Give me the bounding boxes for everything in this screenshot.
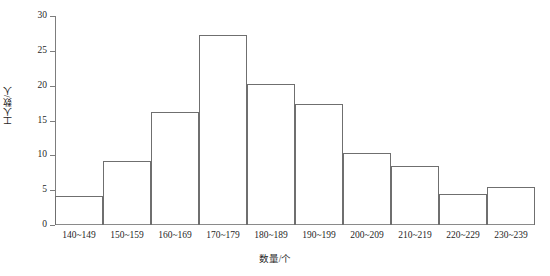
y-axis-tick: 15	[50, 121, 55, 122]
y-axis-tick: 25	[50, 51, 55, 52]
x-axis-tick-label: 190~199	[302, 229, 336, 242]
histogram-bar	[247, 84, 295, 225]
x-axis-tick-label: 180~189	[254, 229, 288, 242]
histogram-bar	[391, 166, 439, 225]
y-axis-tick-label: 10	[38, 148, 48, 161]
histogram-bar	[199, 35, 247, 225]
y-axis-tick-label: 5	[42, 183, 47, 196]
y-axis-tick: 30	[50, 16, 55, 17]
histogram-bar	[343, 153, 391, 225]
x-axis-tick-label: 230~239	[494, 229, 528, 242]
x-axis-tick-label: 210~219	[398, 229, 432, 242]
y-axis-tick: 20	[50, 86, 55, 87]
histogram-bar	[439, 194, 487, 225]
y-axis-tick: 0	[50, 225, 55, 226]
x-axis-title: 数量/个	[0, 253, 550, 266]
histogram-bar	[103, 161, 151, 225]
histogram-bar	[487, 187, 535, 225]
y-axis-tick-label: 25	[38, 44, 48, 57]
x-axis-tick-label: 150~159	[110, 229, 144, 242]
y-axis-tick-label: 15	[38, 114, 48, 127]
histogram-bar	[55, 196, 103, 225]
y-axis-tick: 5	[50, 190, 55, 191]
y-axis-tick-label: 30	[38, 9, 48, 22]
x-axis-tick-label: 170~179	[206, 229, 240, 242]
x-axis-tick-label: 220~229	[446, 229, 480, 242]
y-axis-tick-label: 20	[38, 79, 48, 92]
histogram-figure: 工人数/人 051015202530 140~149150~159160~169…	[0, 0, 550, 276]
y-axis-tick-label: 0	[42, 218, 47, 231]
plot-area: 051015202530 140~149150~159160~169170~17…	[55, 16, 535, 225]
histogram-bar	[151, 112, 199, 225]
y-axis-title: 工人数/人	[2, 86, 16, 125]
x-axis-tick-label: 160~169	[158, 229, 192, 242]
x-axis-tick-label: 140~149	[62, 229, 96, 242]
histogram-bar	[295, 104, 343, 225]
y-axis-line	[55, 16, 56, 225]
y-axis-tick: 10	[50, 155, 55, 156]
x-axis-tick-label: 200~209	[350, 229, 384, 242]
